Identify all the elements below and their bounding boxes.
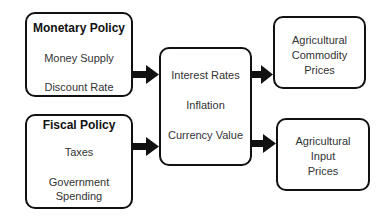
taxes-label: Taxes bbox=[27, 146, 131, 159]
money-supply-label: Money Supply bbox=[27, 52, 131, 65]
input-line1: Agricultural bbox=[278, 135, 368, 148]
macro-factors-box: Interest Rates Inflation Currency Value bbox=[159, 47, 252, 166]
discount-rate-label: Discount Rate bbox=[27, 81, 131, 94]
commodity-prices-box: Agricultural Commodity Prices bbox=[273, 16, 366, 89]
fiscal-policy-title: Fiscal Policy bbox=[27, 119, 131, 132]
commodity-line3: Prices bbox=[275, 64, 364, 77]
interest-rates-label: Interest Rates bbox=[161, 69, 250, 82]
arrow-factors-to-commodity bbox=[251, 65, 273, 84]
inflation-label: Inflation bbox=[161, 99, 250, 112]
arrow-monetary-to-factors bbox=[131, 65, 159, 84]
currency-value-label: Currency Value bbox=[161, 129, 250, 142]
fiscal-policy-box: Fiscal Policy Taxes Government Spending bbox=[25, 114, 133, 209]
commodity-line2: Commodity bbox=[275, 49, 364, 62]
arrow-factors-to-input bbox=[251, 134, 276, 153]
input-line3: Prices bbox=[278, 165, 368, 178]
input-prices-box: Agricultural Input Prices bbox=[276, 118, 370, 191]
spending-label: Spending bbox=[27, 190, 131, 203]
arrow-fiscal-to-factors bbox=[131, 137, 159, 156]
monetary-policy-title: Monetary Policy bbox=[27, 22, 131, 35]
input-line2: Input bbox=[278, 150, 368, 163]
monetary-policy-box: Monetary Policy Money Supply Discount Ra… bbox=[25, 12, 133, 97]
commodity-line1: Agricultural bbox=[275, 34, 364, 47]
government-label: Government bbox=[27, 176, 131, 189]
